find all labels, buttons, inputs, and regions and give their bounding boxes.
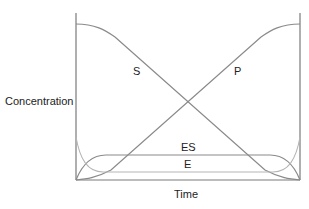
x-axis-label: Time xyxy=(174,188,198,200)
label-es: ES xyxy=(181,141,196,153)
label-s: S xyxy=(133,65,140,77)
y-axis-label: Concentration xyxy=(5,95,74,107)
enzyme-kinetics-chart: S P ES E Concentration Time xyxy=(0,0,309,209)
series-p-line xyxy=(76,24,300,180)
label-p: P xyxy=(234,65,241,77)
label-e: E xyxy=(184,158,191,170)
